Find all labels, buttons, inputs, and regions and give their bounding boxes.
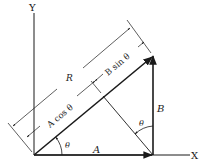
b-sin-theta-label: B sin θ xyxy=(103,51,132,78)
y-axis-label: Y xyxy=(28,2,36,13)
vector-addition-diagram: Y X A B θ θ R A cos θ B sin θ xyxy=(0,0,205,167)
bsin-dimension-line-1 xyxy=(95,74,103,81)
x-axis-label: X xyxy=(191,150,199,161)
vector-a-label: A xyxy=(92,144,100,155)
projection-line xyxy=(103,96,153,155)
diagram-svg: Y X A B θ θ R A cos θ B sin θ xyxy=(0,0,205,167)
theta-origin-label: θ xyxy=(65,141,70,150)
extension-line-origin xyxy=(8,123,32,152)
theta-b-label: θ xyxy=(139,119,144,128)
r-label: R xyxy=(65,73,73,83)
vector-r xyxy=(34,57,152,155)
acos-dimension-line-2 xyxy=(77,81,95,96)
extension-line-tip xyxy=(127,20,151,53)
angle-arc-origin xyxy=(56,137,63,155)
bsin-dimension-line-2 xyxy=(138,42,144,47)
angle-arc-b xyxy=(135,126,153,134)
a-cos-theta-label: A cos θ xyxy=(44,102,75,130)
vector-b-label: B xyxy=(156,103,164,114)
